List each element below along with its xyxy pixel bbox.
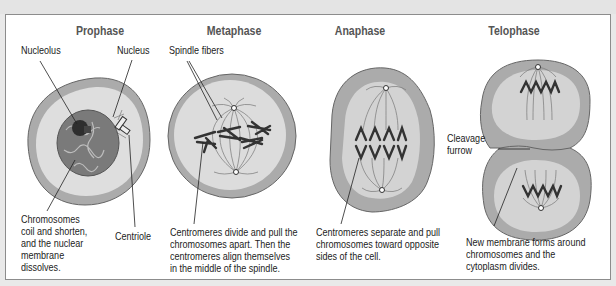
- caption-line: chromosomes and the: [466, 248, 555, 261]
- prophase-cell: [28, 78, 150, 205]
- caption-line: chromosomes toward opposite: [316, 238, 439, 251]
- label-spindle-fibers: Spindle fibers: [169, 44, 224, 57]
- caption-line: Chromosomes: [21, 213, 80, 226]
- caption-line: New membrane forms around: [466, 236, 585, 249]
- centriole-bottom: [234, 170, 239, 175]
- phase-title-telophase: Telophase: [461, 24, 567, 38]
- caption-line: sides of the cell.: [316, 250, 381, 263]
- label-nucleus: Nucleus: [117, 44, 150, 57]
- caption-line: and the nuclear: [21, 237, 83, 250]
- chromatin-clump: [84, 126, 91, 133]
- label-nucleolus: Nucleolus: [21, 44, 61, 57]
- label-cleavage-furrow-line1: Cleavage: [447, 132, 485, 145]
- centriole-top: [232, 106, 237, 111]
- metaphase-cell: [168, 74, 296, 198]
- caption-line: Centromeres separate and pull: [316, 226, 440, 239]
- caption-line: membrane: [21, 249, 64, 262]
- caption-line: centromeres align themselves: [170, 250, 290, 263]
- caption-line: coil and shorten,: [21, 225, 87, 238]
- caption-line: in the middle of the spindle.: [170, 262, 280, 275]
- centriole-top: [536, 65, 541, 70]
- caption-line: dissolves.: [21, 261, 61, 274]
- telophase-cell: [480, 60, 591, 240]
- centriole-bottom: [380, 188, 385, 193]
- caption-line: Centromeres divide and pull the: [170, 226, 298, 239]
- centriole-bottom: [539, 206, 544, 211]
- caption-line: chromosomes apart. Then the: [170, 238, 290, 251]
- caption-line: cytoplasm divides.: [466, 260, 540, 273]
- label-centriole: Centriole: [115, 230, 151, 243]
- centriole-top: [384, 86, 389, 91]
- phase-title-prophase: Prophase: [47, 24, 153, 38]
- anaphase-cell: [330, 68, 434, 212]
- label-cleavage-furrow-line2: furrow: [447, 144, 472, 157]
- phase-title-anaphase: Anaphase: [307, 24, 413, 38]
- phase-title-metaphase: Metaphase: [181, 24, 287, 38]
